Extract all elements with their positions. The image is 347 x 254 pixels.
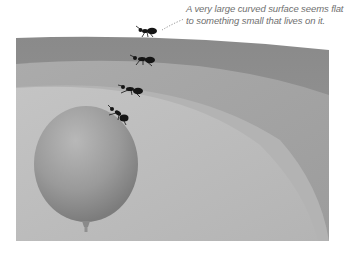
ant-icon xyxy=(136,26,157,37)
caption: A very large curved surface seems flat t… xyxy=(186,3,346,27)
caption-line-2: to something small that lives on it. xyxy=(186,15,346,27)
caption-pointer xyxy=(162,19,184,30)
caption-line-1: A very large curved surface seems flat xyxy=(186,3,346,15)
curvature-illustration xyxy=(0,0,347,254)
